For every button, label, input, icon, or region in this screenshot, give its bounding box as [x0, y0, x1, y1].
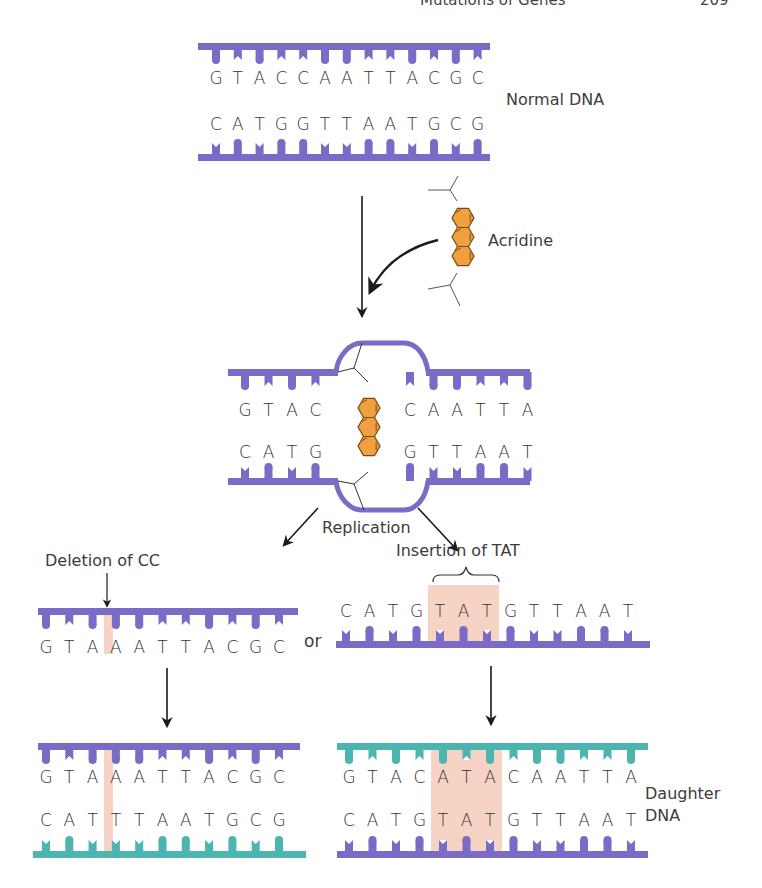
base-letter: G	[471, 114, 484, 134]
daughter-left-top-strand	[38, 743, 300, 764]
dna-bases: GTACCAATTACGCCATGGTTAATGCGGTACCAATTACATG…	[39, 68, 637, 830]
base-letter: G	[342, 767, 355, 787]
base-letter: A	[390, 767, 402, 787]
base-letter: A	[133, 637, 145, 657]
base-letter: T	[204, 810, 215, 830]
base-letter: A	[484, 767, 496, 787]
base-letter: A	[451, 400, 463, 420]
normal-bottom-strand	[198, 139, 490, 161]
base-letter: A	[406, 68, 418, 88]
base-letter: G	[249, 767, 262, 787]
base-letter: A	[475, 442, 487, 462]
base-letter: C	[250, 810, 262, 830]
base-letter: C	[310, 400, 322, 420]
daughter-left-top-bases: GTAAATTACGC	[39, 767, 285, 787]
base-letter: A	[254, 68, 266, 88]
base-letter: T	[435, 601, 446, 621]
dna-strands	[33, 43, 650, 858]
base-letter: C	[343, 810, 355, 830]
base-letter: A	[180, 810, 192, 830]
base-letter: A	[599, 601, 611, 621]
base-letter: T	[485, 810, 496, 830]
base-letter: T	[499, 400, 510, 420]
base-letter: C	[226, 637, 238, 657]
base-letter: C	[273, 637, 285, 657]
base-letter: G	[309, 442, 322, 462]
base-letter: G	[504, 601, 517, 621]
base-letter: C	[414, 767, 426, 787]
base-letter: T	[579, 767, 590, 787]
normal-top-bases: GTACCAATTACGC	[209, 68, 483, 88]
base-letter: T	[181, 767, 192, 787]
base-letter: T	[233, 68, 244, 88]
base-letter: G	[413, 810, 426, 830]
base-letter: A	[458, 601, 470, 621]
daughter-right-bottom-bases: CATGTATGTTAAT	[343, 810, 637, 830]
intercalated-top-left-bases: GTAC	[238, 400, 321, 420]
base-letter: T	[388, 601, 399, 621]
base-letter: T	[623, 601, 634, 621]
base-letter: G	[507, 810, 520, 830]
base-letter: C	[273, 767, 285, 787]
base-letter: A	[498, 442, 510, 462]
base-letter: T	[555, 810, 566, 830]
acridine-label: Acridine	[488, 231, 553, 250]
base-letter: G	[297, 114, 310, 134]
replication-bubble	[336, 343, 428, 510]
intercalated-top-right-bases: CAATTA	[404, 400, 534, 420]
base-letter: A	[87, 767, 99, 787]
daughter-dna-label-line2: DNA	[645, 806, 680, 825]
base-letter: T	[385, 68, 396, 88]
normal-bottom-bases: CATGGTTAATGCG	[210, 114, 484, 134]
daughter-right-top-strand	[337, 743, 648, 764]
curved-insert-arrow	[370, 240, 438, 292]
base-letter: T	[181, 637, 192, 657]
insertion-brace	[433, 567, 499, 582]
daughter-right-top-bases: GTACATACAATTA	[342, 767, 637, 787]
deletion-strand	[38, 608, 298, 629]
base-letter: T	[64, 637, 75, 657]
base-letter: G	[403, 442, 416, 462]
base-letter: A	[110, 767, 122, 787]
intercalated-bottom-left-strand	[228, 463, 338, 485]
base-letter: A	[428, 400, 440, 420]
base-letter: T	[461, 767, 472, 787]
base-letter: A	[157, 810, 169, 830]
base-letter: T	[626, 810, 637, 830]
base-letter: T	[407, 114, 418, 134]
base-letter: T	[452, 442, 463, 462]
base-letter: A	[602, 810, 614, 830]
base-letter: T	[475, 400, 486, 420]
normal-dna-label: Normal DNA	[506, 90, 604, 109]
base-letter: A	[522, 400, 534, 420]
insertion-label: Insertion of TAT	[396, 541, 520, 560]
base-letter: A	[363, 114, 375, 134]
base-letter: C	[340, 601, 352, 621]
base-letter: T	[552, 601, 563, 621]
base-letter: A	[63, 810, 75, 830]
base-letter: T	[367, 767, 378, 787]
base-letter: T	[522, 442, 533, 462]
base-letter: C	[428, 68, 440, 88]
acridine-intercalated	[358, 398, 380, 455]
base-letter: A	[555, 767, 567, 787]
base-letter: T	[391, 810, 402, 830]
deletion-bases: GTAAATTACGC	[39, 637, 285, 657]
base-letter: T	[254, 114, 265, 134]
base-letter: C	[404, 400, 416, 420]
base-letter: A	[319, 68, 331, 88]
base-letter: A	[263, 442, 275, 462]
base-letter: G	[272, 810, 285, 830]
base-letter: T	[320, 114, 331, 134]
base-letter: G	[39, 637, 52, 657]
base-letter: T	[134, 810, 145, 830]
base-letter: A	[367, 810, 379, 830]
base-letter: A	[341, 68, 353, 88]
base-letter: G	[209, 68, 222, 88]
daughter-left-bottom-bases: CATTTAATGCG	[40, 810, 286, 830]
base-letter: C	[297, 68, 309, 88]
base-letter: T	[287, 442, 298, 462]
base-letter: A	[437, 767, 449, 787]
normal-top-strand	[198, 43, 490, 64]
daughter-left-bottom-strand	[33, 836, 306, 858]
